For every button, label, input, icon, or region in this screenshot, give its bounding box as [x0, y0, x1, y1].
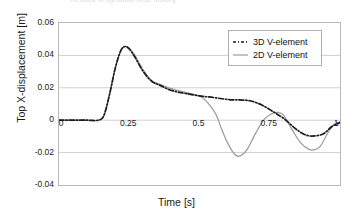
y-tick-label: 0.06	[10, 17, 54, 27]
y-axis-ticks: -0.04-0.0200.020.040.06	[10, 0, 54, 220]
chart-legend: 3D V-element 2D V-element	[228, 30, 322, 66]
legend-item-2d: 2D V-element	[233, 48, 317, 61]
legend-key-dash-dot-icon	[233, 37, 250, 47]
y-tick-label: 0	[10, 114, 54, 124]
y-tick-label: 0.02	[10, 82, 54, 92]
legend-item-3d: 3D V-element	[233, 35, 317, 48]
x-axis-label: Time [s]	[0, 196, 353, 208]
x-tick-label: 0	[59, 118, 64, 128]
x-axis-ticks: 00.250.50.751	[58, 118, 341, 132]
y-tick-label: -0.02	[10, 147, 54, 157]
x-tick-label: 0.75	[260, 118, 277, 128]
x-tick-label: 1	[334, 118, 339, 128]
legend-label-2d: 2D V-element	[253, 50, 308, 60]
x-tick-label: 0.25	[120, 118, 137, 128]
chart-figure: Results of dynamic time history Top X-di…	[0, 0, 353, 220]
legend-label-3d: 3D V-element	[253, 37, 308, 47]
y-tick-label: 0.04	[10, 49, 54, 59]
x-tick-label: 0.5	[193, 118, 205, 128]
figure-title: Results of dynamic time history	[70, 0, 270, 6]
legend-key-solid-icon	[233, 50, 250, 60]
y-tick-label: -0.04	[10, 179, 54, 189]
